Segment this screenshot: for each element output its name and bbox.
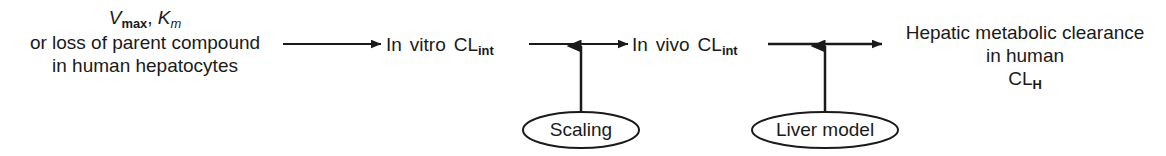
node-in-vivo: InvivoCLint <box>632 33 782 58</box>
annotation-liver-model: Liver model <box>752 120 898 140</box>
clh-subscript: H <box>1032 77 1041 92</box>
in-vitro-word: vitro <box>410 34 446 55</box>
node-output-line-human: in human <box>890 44 1160 67</box>
clh-symbol: CL <box>1008 68 1032 89</box>
node-output-line-symbol: CLH <box>890 67 1160 92</box>
vmax-symbol: V <box>109 7 122 28</box>
vmax-subscript: max <box>121 16 147 31</box>
node-input-line-loss: or loss of parent compound <box>10 31 280 54</box>
kinetics-separator: , <box>147 7 158 28</box>
annotation-scaling-label: Scaling <box>550 119 612 140</box>
annotation-scaling: Scaling <box>523 120 639 140</box>
annotation-liver-model-label: Liver model <box>776 119 874 140</box>
node-in-vitro-text: InvitroCLint <box>386 33 536 58</box>
in-vitro-prefix: In <box>386 34 402 55</box>
node-in-vivo-text: InvivoCLint <box>632 33 782 58</box>
node-input: Vmax, Km or loss of parent compound in h… <box>10 6 280 77</box>
flow-diagram: Vmax, Km or loss of parent compound in h… <box>0 0 1166 156</box>
node-input-line-hepatocytes: in human hepatocytes <box>10 54 280 77</box>
in-vivo-cl-symbol: CL <box>698 34 722 55</box>
km-symbol: K <box>158 7 171 28</box>
node-output-line-clearance: Hepatic metabolic clearance <box>890 21 1160 44</box>
in-vitro-cl-subscript: int <box>478 43 494 58</box>
node-in-vitro: InvitroCLint <box>386 33 536 58</box>
km-subscript: m <box>171 16 182 31</box>
in-vivo-cl-subscript: int <box>722 43 738 58</box>
node-input-line-kinetics: Vmax, Km <box>10 6 280 31</box>
node-output: Hepatic metabolic clearance in human CLH <box>890 21 1160 92</box>
in-vivo-word: vivo <box>656 34 690 55</box>
in-vivo-prefix: In <box>632 34 648 55</box>
in-vitro-cl-symbol: CL <box>454 34 478 55</box>
